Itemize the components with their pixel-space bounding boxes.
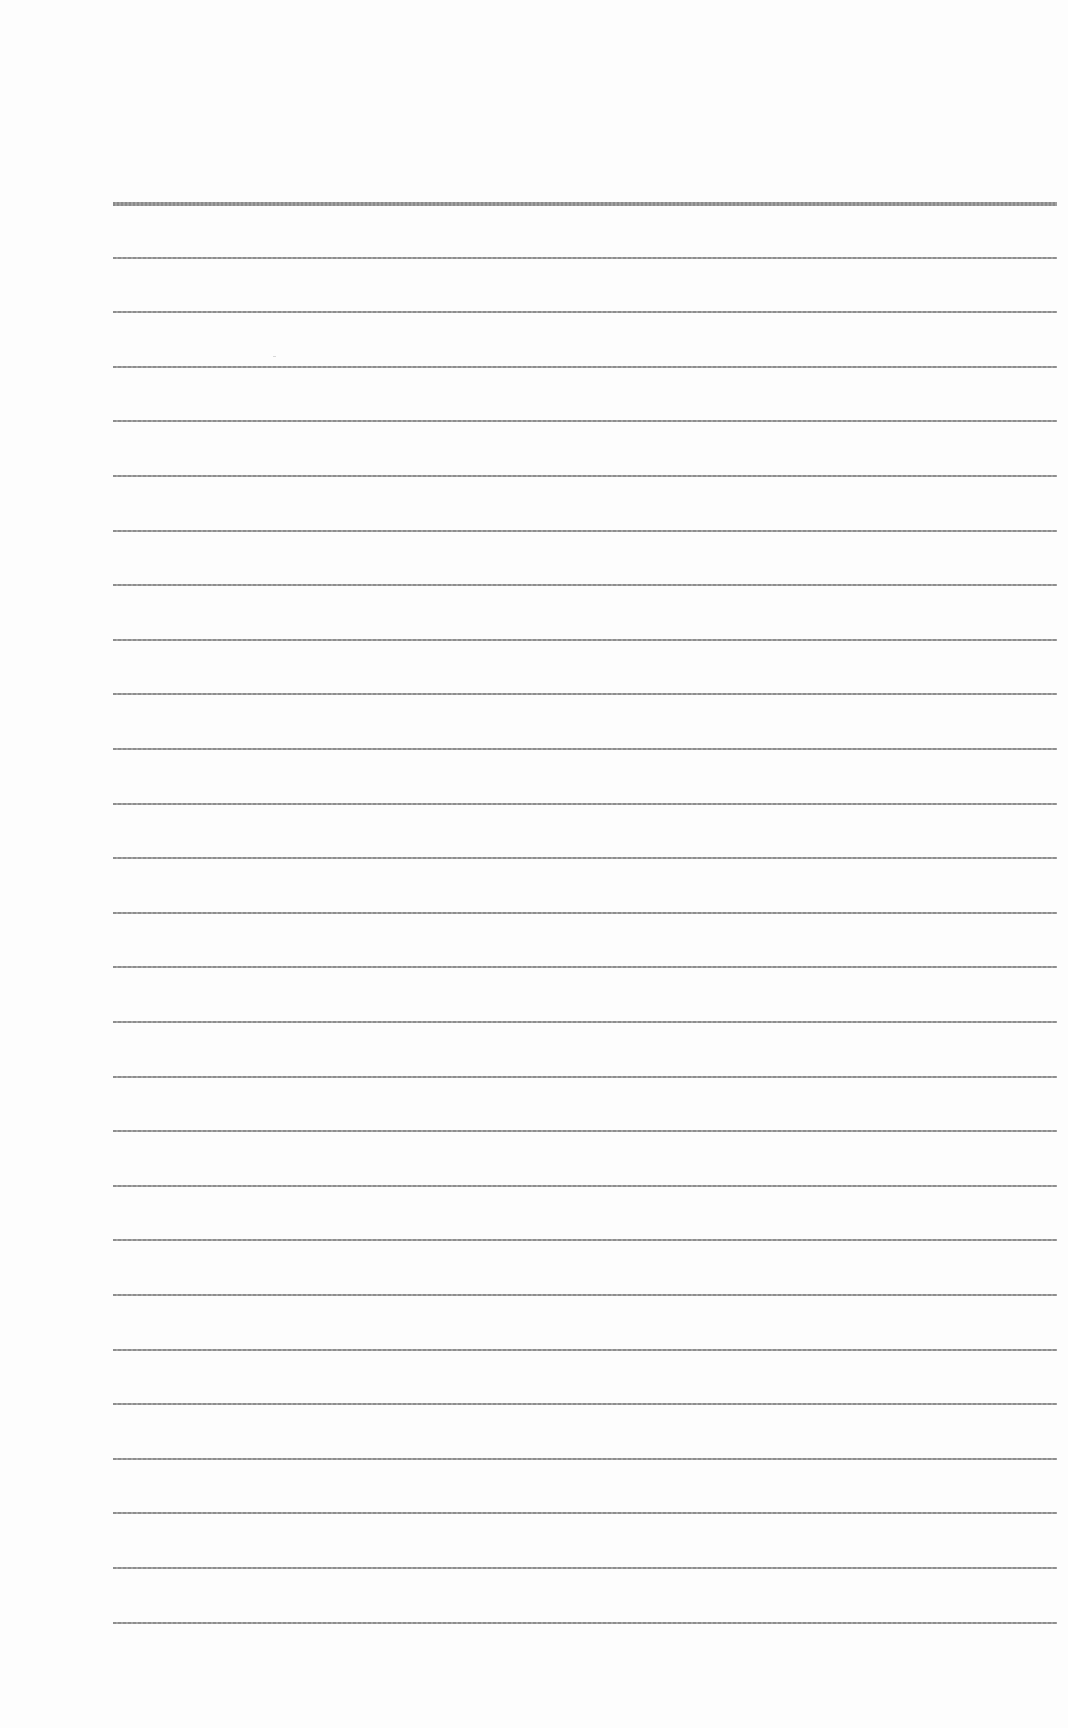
rule-line	[113, 475, 1057, 477]
rule-line	[113, 1185, 1057, 1187]
rule-line	[113, 1294, 1057, 1296]
ruled-sheet	[0, 0, 1068, 1728]
header-rule-line	[113, 202, 1057, 206]
rule-line	[113, 584, 1057, 586]
rule-line	[113, 693, 1057, 695]
rule-line	[113, 966, 1057, 968]
rule-line	[113, 803, 1057, 805]
rule-line	[113, 857, 1057, 859]
rule-line	[113, 912, 1057, 914]
rule-line	[113, 311, 1057, 313]
rule-line	[113, 366, 1057, 368]
rule-line	[113, 1130, 1057, 1132]
rule-line	[113, 1622, 1057, 1624]
rule-line	[113, 1021, 1057, 1023]
rule-line	[113, 1458, 1057, 1460]
rule-line	[113, 748, 1057, 750]
rule-line	[113, 1403, 1057, 1405]
rule-line	[113, 1512, 1057, 1514]
rule-line	[113, 1076, 1057, 1078]
rule-line	[113, 639, 1057, 641]
rule-line	[113, 1567, 1057, 1569]
paper-speck	[273, 356, 276, 357]
rule-line	[113, 420, 1057, 422]
rule-line	[113, 1239, 1057, 1241]
rule-line	[113, 257, 1057, 259]
rule-line	[113, 530, 1057, 532]
rule-line	[113, 1349, 1057, 1351]
